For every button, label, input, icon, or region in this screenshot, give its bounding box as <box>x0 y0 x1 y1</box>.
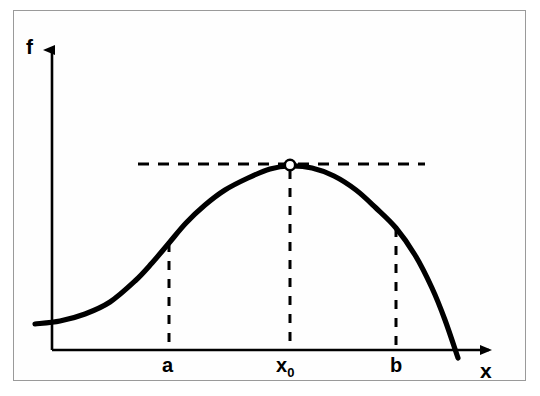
figure-root: f x a x0 b <box>0 0 540 396</box>
plot-canvas <box>0 0 540 396</box>
x-tick-label-x0: x0 <box>276 355 294 379</box>
y-axis-label: f <box>26 36 33 57</box>
x-tick-label-a: a <box>162 355 173 375</box>
x-tick-label-x0-subscript: 0 <box>287 365 294 380</box>
maximum-point-marker <box>285 160 295 170</box>
x-axis-label: x <box>480 360 492 381</box>
x-tick-label-x0-base: x <box>276 354 287 376</box>
x-tick-label-b: b <box>390 355 402 375</box>
function-curve <box>35 166 458 358</box>
